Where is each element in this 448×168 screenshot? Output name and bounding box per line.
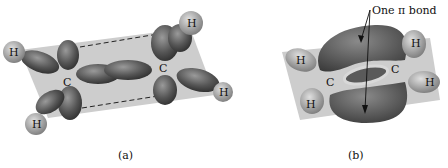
atom-label-c: C (159, 62, 167, 75)
atom-label-h: H (9, 46, 19, 59)
atom-label-h: H (219, 86, 229, 99)
atom-label-c: C (326, 76, 334, 89)
atom-label-h: H (425, 76, 435, 89)
ch-bond-lobe (408, 71, 440, 93)
atom-label-c: C (63, 76, 71, 89)
caption-b: (b) (348, 149, 364, 162)
atom-label-h: H (187, 17, 197, 30)
atom-label-h: H (411, 37, 421, 50)
pi-bond-annotation: One π bond (372, 4, 437, 17)
panel-b: H H H H C C One π bond (b) (282, 4, 440, 162)
atom-label-h: H (32, 118, 42, 131)
ethylene-bonding-diagram: H H H H C C (a) H H H H C C One π bond (… (0, 0, 448, 168)
p-orbital-upper-left (57, 40, 79, 70)
caption-a: (a) (118, 149, 133, 162)
atom-label-h: H (296, 54, 306, 67)
diagram-canvas: H H H H C C (a) H H H H C C One π bond (… (0, 0, 448, 168)
p-orbital-lower-right (153, 75, 177, 105)
atom-label-c: C (391, 63, 399, 76)
panel-a: H H H H C C (a) (3, 11, 233, 162)
sigma-cc-lobe-right (104, 60, 152, 80)
atom-label-h: H (306, 98, 316, 111)
